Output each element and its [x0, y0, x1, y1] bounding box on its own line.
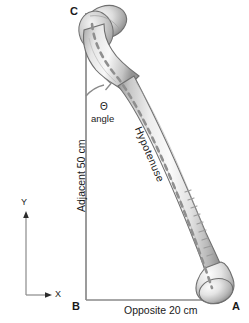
angle-word-label: angle [91, 114, 114, 124]
coordinate-axes [23, 211, 52, 298]
y-axis-label: Y [21, 198, 27, 207]
diagram-graphics [0, 0, 249, 323]
x-axis-label: X [55, 290, 61, 299]
vertex-label-b: B [72, 301, 80, 312]
y-axis-arrowhead [23, 211, 29, 218]
adjacent-side-label: Adjacent 50 cm [76, 140, 87, 212]
x-axis-arrowhead [45, 292, 52, 298]
opposite-side-label: Opposite 20 cm [124, 305, 198, 316]
diagram-canvas: C B A Adjacent 50 cm Opposite 20 cm Hypo… [0, 0, 249, 323]
vertex-label-a: A [232, 301, 240, 312]
angle-arc [86, 85, 104, 96]
theta-symbol: Θ [100, 102, 108, 112]
vertex-label-c: C [70, 6, 78, 17]
